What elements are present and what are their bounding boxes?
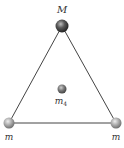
edge-right xyxy=(62,26,116,123)
mass-top-label: M xyxy=(56,4,68,15)
mass-center-sphere xyxy=(58,85,67,94)
mass-bottom-left-label: m xyxy=(5,132,14,142)
mass-top-sphere xyxy=(56,20,69,33)
edge-left xyxy=(9,26,62,123)
mass-bottom-left-sphere xyxy=(4,118,15,129)
mass-center-label-main: m xyxy=(55,96,64,106)
mass-center-label-subscript: 4 xyxy=(63,100,67,107)
mass-bottom-right-sphere xyxy=(111,118,122,129)
mass-center-label: m4 xyxy=(55,96,68,107)
triangle-mass-diagram: M m m m4 xyxy=(0,0,124,148)
mass-bottom-right-label: m xyxy=(112,132,121,142)
